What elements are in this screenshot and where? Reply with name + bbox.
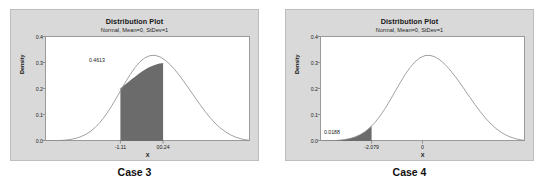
area-probability-label-3: 0.4613 <box>89 57 105 63</box>
case-block-4: Distribution Plot Normal, Mean=0, StDev=… <box>285 0 540 191</box>
case-caption-3: Case 3 <box>10 166 259 178</box>
x-tick-3-0: -1.11 <box>115 144 126 150</box>
x-tick-4-1: 0 <box>421 144 424 150</box>
plot-frame-4: Distribution Plot Normal, Mean=0, StDev=… <box>285 9 534 161</box>
plot-frame-3: Distribution Plot Normal, Mean=0, StDev=… <box>10 9 259 161</box>
area-probability-label-4: 0.0188 <box>324 129 340 135</box>
x-axis-label-4: X <box>320 152 525 158</box>
plot-canvas-4 <box>286 10 535 162</box>
x-tick-3-1: 00.24 <box>157 144 170 150</box>
x-tick-4-0: -2.079 <box>364 144 379 150</box>
x-axis-label-3: X <box>45 152 250 158</box>
shaded-area-3 <box>120 63 163 141</box>
density-curve-4 <box>320 55 525 141</box>
case-caption-4: Case 4 <box>285 166 534 178</box>
screenshot-root: Distribution Plot Normal, Mean=0, StDev=… <box>0 0 550 191</box>
plot-canvas-3 <box>11 10 260 162</box>
case-block-3: Distribution Plot Normal, Mean=0, StDev=… <box>10 0 265 191</box>
